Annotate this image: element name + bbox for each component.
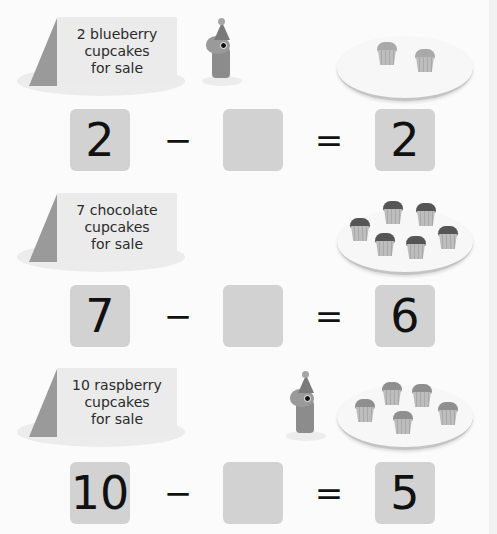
- sign-line: for sale: [91, 411, 143, 428]
- tent-card-sign-icon: [29, 18, 57, 86]
- cupcake-icon: [414, 49, 436, 73]
- problem-3: 10 raspberry cupcakes for sale 10 − = 5: [0, 355, 497, 534]
- sign-line: cupcakes: [84, 394, 149, 411]
- minus-sign: −: [163, 109, 193, 171]
- cupcake-icon: [376, 42, 398, 66]
- sign-line: cupcakes: [84, 43, 149, 60]
- sign-line: for sale: [91, 236, 143, 253]
- tent-card-sign-icon: [29, 369, 57, 437]
- equation: 10 − = 5: [0, 462, 497, 524]
- equals-sign: =: [314, 285, 344, 347]
- sign-card: 7 chocolate cupcakes for sale: [17, 190, 185, 272]
- cupcake-icon: [381, 382, 403, 406]
- equation: 7 − = 6: [0, 285, 497, 347]
- minus-sign: −: [163, 462, 193, 524]
- sign-card: 10 raspberry cupcakes for sale: [17, 365, 185, 447]
- sign-line: 7 chocolate: [76, 202, 157, 219]
- cupcake-icon: [437, 402, 459, 426]
- cupcake-icon: [437, 226, 459, 250]
- sign-text: 7 chocolate cupcakes for sale: [57, 193, 177, 261]
- minuend-box: 7: [70, 285, 130, 347]
- cupcake-icon: [405, 236, 427, 260]
- sign-card: 2 blueberry cupcakes for sale: [17, 14, 185, 96]
- cupcake-icon: [382, 201, 404, 225]
- answer-input-box[interactable]: [223, 285, 283, 347]
- problem-2: 7 chocolate cupcakes for sale 7 − = 6: [0, 180, 497, 355]
- equation: 2 − = 2: [0, 109, 497, 171]
- party-mouse-icon: [282, 375, 332, 441]
- plate-icon: [337, 36, 473, 101]
- sign-text: 2 blueberry cupcakes for sale: [57, 17, 177, 85]
- minus-sign: −: [163, 285, 193, 347]
- cupcake-icon: [374, 233, 396, 257]
- answer-input-box[interactable]: [223, 109, 283, 171]
- cupcake-icon: [354, 399, 376, 423]
- sign-line: 10 raspberry: [72, 377, 162, 394]
- equals-sign: =: [314, 109, 344, 171]
- problem-1: 2 blueberry cupcakes for sale 2 − = 2: [0, 0, 497, 180]
- tent-card-sign-icon: [29, 194, 57, 262]
- minuend-box: 10: [70, 462, 130, 524]
- sign-line: 2 blueberry: [77, 26, 158, 43]
- cupcake-icon: [392, 411, 414, 435]
- result-box: 5: [375, 462, 435, 524]
- minuend-box: 2: [70, 109, 130, 171]
- result-box: 6: [375, 285, 435, 347]
- cupcake-icon: [415, 203, 437, 227]
- cupcake-icon: [349, 218, 371, 242]
- party-mouse-icon: [198, 22, 248, 86]
- result-box: 2: [375, 109, 435, 171]
- sign-line: cupcakes: [84, 219, 149, 236]
- sign-text: 10 raspberry cupcakes for sale: [57, 368, 177, 436]
- equals-sign: =: [314, 462, 344, 524]
- cupcake-icon: [411, 384, 433, 408]
- sign-line: for sale: [91, 60, 143, 77]
- answer-input-box[interactable]: [223, 462, 283, 524]
